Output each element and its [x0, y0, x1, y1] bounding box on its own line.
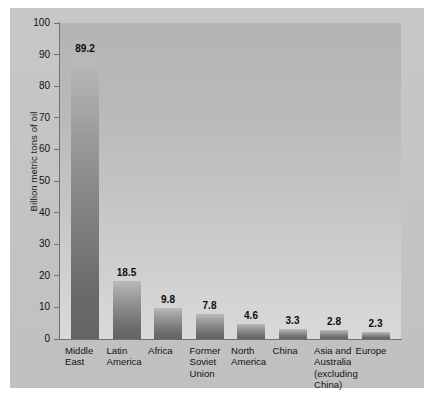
y-axis-tick — [54, 117, 60, 118]
y-axis-tick-label: 10 — [39, 302, 50, 312]
y-axis-tick-label: 100 — [33, 18, 50, 28]
y-axis-tick-label: 70 — [39, 113, 50, 123]
bar — [71, 57, 99, 339]
y-axis-tick-label: 80 — [39, 81, 50, 91]
y-axis-tick-label: 0 — [44, 334, 50, 344]
y-axis-tick-label: 40 — [39, 208, 50, 218]
y-axis-title: Billion metric tons of oil — [28, 87, 39, 237]
y-axis-tick-label: 20 — [39, 271, 50, 281]
bar-value-label: 9.8 — [146, 294, 190, 305]
x-axis-category-label-line: America — [231, 356, 283, 367]
x-axis-category-label-line: (excluding — [314, 368, 366, 379]
x-axis-category-label-line: America — [107, 356, 159, 367]
y-axis-tick — [54, 86, 60, 87]
y-axis-tick-label: 30 — [39, 239, 50, 249]
y-axis-tick-label: 50 — [39, 176, 50, 186]
x-axis-category-label-line: Union — [190, 368, 242, 379]
bar — [154, 308, 182, 339]
chart-screenshot: Billion metric tons of oil 0102030405060… — [0, 0, 434, 401]
y-axis-tick — [54, 307, 60, 308]
bar-value-label: 89.2 — [63, 43, 107, 54]
bar-value-label: 2.8 — [312, 316, 356, 327]
y-axis-tick — [54, 149, 60, 150]
bar — [320, 330, 348, 339]
y-axis-tick — [54, 23, 60, 24]
x-axis-category-label: Europe — [356, 345, 408, 356]
bar — [196, 314, 224, 339]
bar-value-label: 7.8 — [188, 300, 232, 311]
y-axis-tick — [54, 275, 60, 276]
bar-value-label: 4.6 — [229, 310, 273, 321]
bar-value-label: 3.3 — [271, 315, 315, 326]
y-axis-tick — [54, 244, 60, 245]
x-axis-line — [59, 339, 402, 340]
y-axis-tick-label: 60 — [39, 144, 50, 154]
x-axis-category-label-line: Australia — [314, 356, 366, 367]
plot-area — [60, 23, 401, 339]
y-axis-tick — [54, 212, 60, 213]
x-axis-category-label-line: China) — [314, 379, 366, 390]
bar — [362, 332, 390, 339]
y-axis-tick — [54, 339, 60, 340]
x-axis-category-label-line: Europe — [356, 345, 408, 356]
figure-panel: Billion metric tons of oil 0102030405060… — [10, 8, 424, 388]
bar — [113, 281, 141, 339]
bar-value-label: 18.5 — [105, 267, 149, 278]
bar-value-label: 2.3 — [354, 318, 398, 329]
bar — [237, 324, 265, 339]
bar — [279, 329, 307, 339]
y-axis-tick — [54, 54, 60, 55]
y-axis-tick — [54, 181, 60, 182]
y-axis-tick-label: 90 — [39, 50, 50, 60]
